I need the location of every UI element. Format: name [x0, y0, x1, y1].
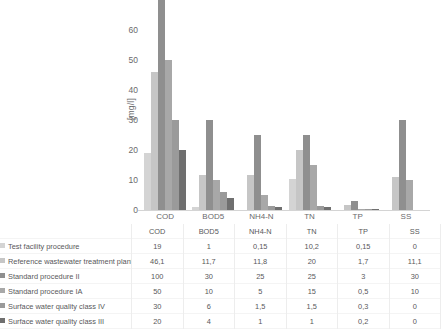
bar-group: TP: [334, 0, 382, 210]
legend-swatch-icon: [0, 288, 5, 293]
table-row: Test facility procedure1910,1510,20,150: [0, 239, 441, 254]
bar-group-bars: [189, 0, 237, 210]
y-axis-tick-label: 40: [129, 86, 138, 94]
legend-entry[interactable]: Reference wastewater treatment plant: [0, 254, 132, 269]
bar[interactable]: [158, 0, 165, 210]
bar[interactable]: [372, 209, 379, 210]
bar[interactable]: [261, 195, 268, 210]
table-cell-value: 4: [183, 314, 235, 329]
bar[interactable]: [392, 177, 399, 210]
bar[interactable]: [289, 179, 296, 210]
table-column-header: SS: [389, 224, 441, 239]
table-cell-value: 46,1: [132, 254, 184, 269]
bar-group-bars: [382, 0, 430, 210]
bar[interactable]: [324, 207, 331, 210]
bar-group: COD: [141, 0, 189, 210]
bar[interactable]: [406, 180, 413, 210]
bar[interactable]: [296, 150, 303, 210]
bar[interactable]: [144, 153, 151, 210]
bar[interactable]: [317, 206, 324, 211]
bar[interactable]: [351, 201, 358, 210]
legend-label: Test facility procedure: [8, 242, 79, 251]
x-axis-category-label: SS: [382, 212, 430, 221]
bar[interactable]: [151, 72, 158, 210]
table-row: Standard procedure IA50105150,510: [0, 284, 441, 299]
table-cell-value: 0: [389, 299, 441, 314]
table-cell-value: 1,7: [338, 254, 390, 269]
legend-entry[interactable]: Standard procedure II: [0, 269, 132, 284]
table-column-header: BOD5: [183, 224, 235, 239]
y-axis-tick-label: 10: [129, 176, 138, 184]
bar[interactable]: [268, 206, 275, 211]
bar[interactable]: [247, 175, 254, 210]
x-axis-category-label: COD: [141, 212, 189, 221]
table-cell-value: 15: [286, 284, 338, 299]
bar[interactable]: [358, 209, 365, 211]
bar[interactable]: [220, 192, 227, 210]
table-cell-value: 30: [183, 269, 235, 284]
legend-entry[interactable]: Test facility procedure: [0, 239, 132, 254]
legend-label: Standard procedure IA: [8, 287, 82, 296]
y-axis-tick-label: 20: [129, 146, 138, 154]
table-cell-value: 10: [389, 284, 441, 299]
table-cell-value: 25: [235, 269, 287, 284]
table-corner-cell: [0, 224, 132, 239]
bar[interactable]: [179, 150, 186, 210]
bar[interactable]: [365, 209, 372, 210]
legend-entry[interactable]: Standard procedure IA: [0, 284, 132, 299]
bar-group: SS: [382, 0, 430, 210]
bar[interactable]: [172, 120, 179, 210]
bar[interactable]: [206, 120, 213, 210]
table-cell-value: 11,7: [183, 254, 235, 269]
bar[interactable]: [213, 180, 220, 210]
x-axis-category-label: BOD5: [189, 212, 237, 221]
bar[interactable]: [399, 120, 406, 210]
bar[interactable]: [199, 175, 206, 210]
legend-label: Surface water quality class IV: [8, 302, 105, 311]
legend-swatch-icon: [0, 258, 5, 263]
table-cell-value: 10,2: [286, 239, 338, 254]
x-axis-category-label: NH4-N: [237, 212, 285, 221]
bar-group-bars: [141, 0, 189, 210]
legend-entry[interactable]: Surface water quality class III: [0, 314, 132, 329]
legend-swatch-icon: [0, 243, 5, 248]
table-row: Reference wastewater treatment plant46,1…: [0, 254, 441, 269]
bar[interactable]: [192, 207, 199, 210]
table-body: Test facility procedure1910,1510,20,150R…: [0, 239, 441, 329]
table-cell-value: 3: [338, 269, 390, 284]
bar[interactable]: [303, 135, 310, 210]
table-column-header: COD: [132, 224, 184, 239]
table-cell-value: 11,1: [389, 254, 441, 269]
legend-label: Surface water quality class III: [8, 317, 104, 326]
bar-group: NH4-N: [237, 0, 285, 210]
bar[interactable]: [275, 207, 282, 210]
table-cell-value: 1: [183, 239, 235, 254]
plot-region: [mg/l] 0102030405060 CODBOD5NH4-NTNTPSS: [0, 0, 434, 222]
table-cell-value: 1,5: [286, 299, 338, 314]
table-row: Surface water quality class IV3061,51,50…: [0, 299, 441, 314]
bar[interactable]: [165, 60, 172, 210]
table-cell-value: 0,5: [338, 284, 390, 299]
legend-label: Standard procedure II: [8, 272, 80, 281]
table-cell-value: 6: [183, 299, 235, 314]
bar[interactable]: [344, 205, 351, 210]
bar[interactable]: [227, 198, 234, 210]
table-cell-value: 0,2: [338, 314, 390, 329]
bar-group: BOD5: [189, 0, 237, 210]
table-cell-value: 19: [132, 239, 184, 254]
table-cell-value: 10: [183, 284, 235, 299]
bar-group-bars: [237, 0, 285, 210]
bar-group: TN: [286, 0, 334, 210]
bar[interactable]: [310, 165, 317, 210]
table-cell-value: 50: [132, 284, 184, 299]
legend-swatch-icon: [0, 273, 5, 278]
table-cell-value: 0: [389, 239, 441, 254]
bar[interactable]: [254, 135, 261, 210]
table-cell-value: 0: [389, 314, 441, 329]
table-cell-value: 30: [132, 299, 184, 314]
legend-entry[interactable]: Surface water quality class IV: [0, 299, 132, 314]
table-cell-value: 0,3: [338, 299, 390, 314]
x-axis-line: [138, 210, 430, 211]
data-table: CODBOD5NH4-NTNTPSS Test facility procedu…: [0, 224, 434, 331]
